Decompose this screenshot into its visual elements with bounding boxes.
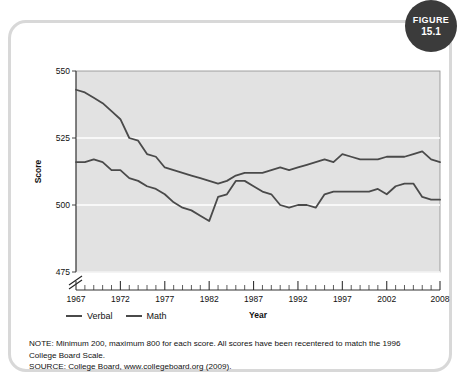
x-tick-label: 1977 (155, 294, 174, 304)
y-tick-label: 500 (56, 200, 70, 210)
y-tick-label: 550 (56, 66, 70, 76)
chart-legend: Verbal Math (66, 311, 167, 321)
x-tick-label: 2008 (431, 294, 450, 304)
x-tick-label: 1992 (288, 294, 307, 304)
plot-area (76, 71, 440, 272)
note-line-1: NOTE: Minimum 200, maximum 800 for each … (29, 338, 441, 350)
x-tick-label: 1987 (244, 294, 263, 304)
figure-notes: NOTE: Minimum 200, maximum 800 for each … (29, 338, 441, 373)
legend-item-math: Math (126, 311, 167, 321)
figure-card: 4755005255501967197219771982198719921997… (8, 20, 452, 372)
legend-line-icon-verbal (66, 315, 82, 317)
figure-badge-word: FIGURE (413, 15, 449, 26)
legend-line-icon-math (126, 315, 142, 317)
y-tick-label: 525 (56, 133, 70, 143)
y-axis-title: Score (33, 159, 43, 183)
legend-label-verbal: Verbal (87, 311, 113, 321)
y-tick-label: 475 (56, 267, 70, 277)
x-tick-label: 2002 (377, 294, 396, 304)
note-source: SOURCE: College Board, www.collegeboard.… (29, 361, 441, 373)
sat-score-line-chart: 4755005255501967197219771982198719921997… (11, 23, 455, 375)
x-tick-label: 1982 (200, 294, 219, 304)
note-line-2: College Board Scale. (29, 350, 441, 362)
x-axis-title: Year (249, 310, 268, 320)
legend-label-math: Math (147, 311, 167, 321)
x-tick-label: 1997 (333, 294, 352, 304)
x-tick-label: 1967 (67, 294, 86, 304)
figure-badge-number: 15.1 (421, 26, 440, 37)
legend-item-verbal: Verbal (66, 311, 113, 321)
chart-container: 4755005255501967197219771982198719921997… (11, 23, 455, 375)
x-tick-label: 1972 (111, 294, 130, 304)
figure-badge: FIGURE 15.1 (405, 0, 457, 52)
